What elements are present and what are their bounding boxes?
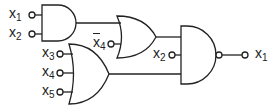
label-output-x1: x1 [255,46,268,63]
input-terminal-x3 [57,51,63,57]
logic-circuit-diagram: x1 x2 x4 x3 x4 x5 x2 x1 [0,0,278,111]
and-gate-1 [42,5,76,41]
input-terminal-x2-nand [169,52,175,58]
nand-gate [181,26,216,84]
input-terminal-x1 [29,12,35,18]
or-gate-3 [69,44,109,104]
label-input-x2-nand: x2 [153,46,166,63]
label-input-x4: x4 [42,64,55,81]
nand-inversion-bubble [216,52,222,58]
output-terminal-x1 [242,52,248,58]
label-input-x2: x2 [9,25,22,42]
input-terminal-x4bar [108,41,114,47]
label-input-x3: x3 [42,45,55,62]
input-terminal-x5 [57,89,63,95]
label-input-x5: x5 [42,83,55,100]
label-input-x4-bar: x4 [93,35,106,52]
input-terminal-x4 [57,70,63,76]
label-input-x1: x1 [9,6,22,23]
input-terminal-x2 [29,31,35,37]
or-gate-2 [117,16,156,58]
